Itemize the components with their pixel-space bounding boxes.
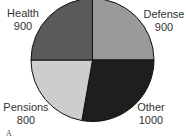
label-other-value: 1000 bbox=[132, 114, 170, 127]
label-pensions: Pensions 800 bbox=[2, 101, 50, 127]
label-defense-value: 900 bbox=[142, 21, 186, 34]
label-pensions-name: Pensions bbox=[2, 101, 50, 114]
label-health: Health 900 bbox=[4, 7, 42, 33]
label-health-name: Health bbox=[4, 7, 42, 20]
label-defense: Defense 900 bbox=[142, 8, 186, 34]
label-defense-name: Defense bbox=[142, 8, 186, 21]
figure-label: A bbox=[6, 129, 12, 138]
label-pensions-value: 800 bbox=[2, 114, 50, 127]
label-health-value: 900 bbox=[4, 20, 42, 33]
label-other-name: Other bbox=[132, 101, 170, 114]
label-other: Other 1000 bbox=[132, 101, 170, 127]
